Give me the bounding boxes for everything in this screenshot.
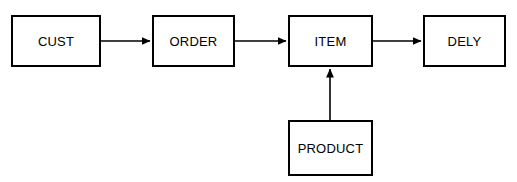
node-product-label: PRODUCT <box>298 142 364 155</box>
node-dely[interactable]: DELY <box>423 15 506 67</box>
node-cust[interactable]: CUST <box>11 15 101 67</box>
node-item-label: ITEM <box>315 35 347 48</box>
node-cust-label: CUST <box>38 35 74 48</box>
node-order-label: ORDER <box>170 35 218 48</box>
node-dely-label: DELY <box>448 35 482 48</box>
node-order[interactable]: ORDER <box>152 15 235 67</box>
node-product[interactable]: PRODUCT <box>288 120 373 176</box>
flow-diagram: CUST ORDER ITEM DELY PRODUCT <box>0 0 517 182</box>
node-item[interactable]: ITEM <box>288 15 373 67</box>
